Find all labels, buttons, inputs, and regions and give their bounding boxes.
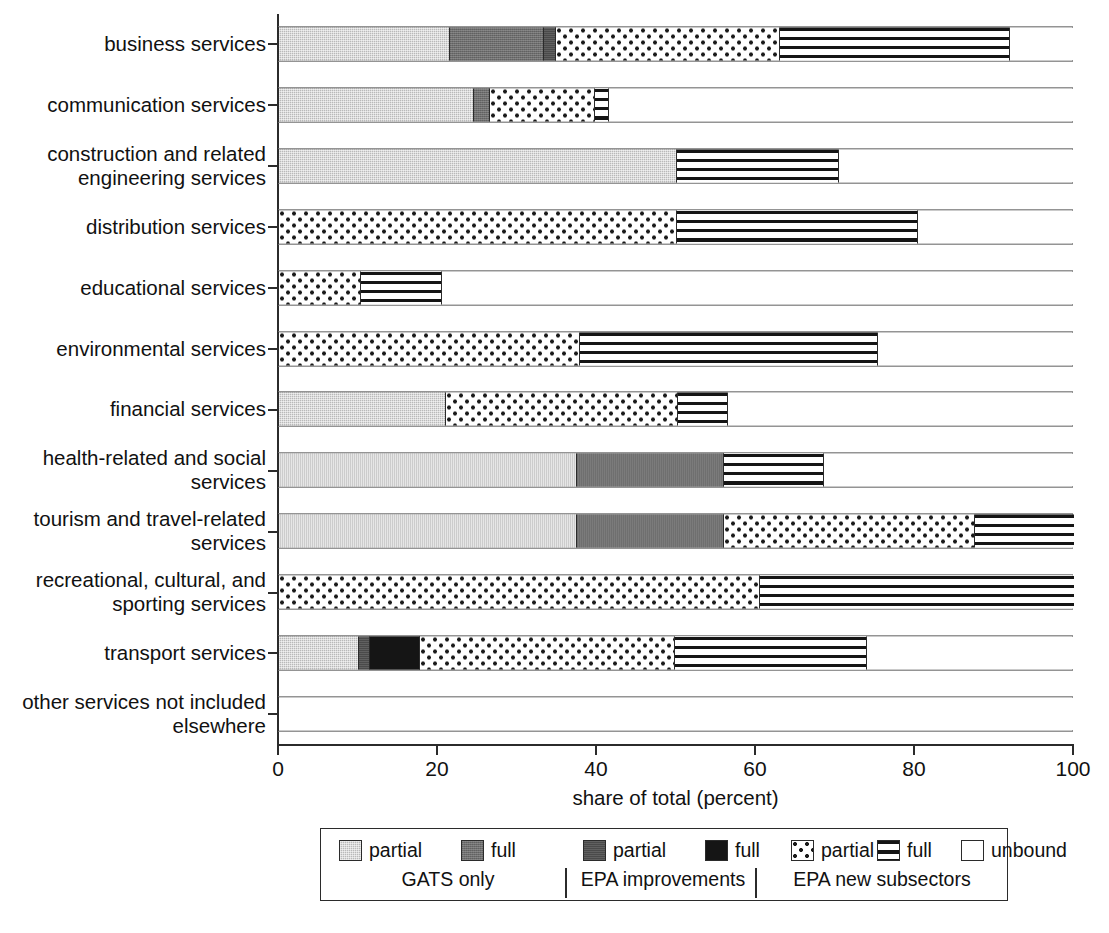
bar-segment-new_partial bbox=[279, 271, 361, 304]
y-axis-tick bbox=[268, 348, 278, 350]
chart-row: transport services bbox=[0, 623, 1109, 683]
y-axis-tick bbox=[268, 470, 278, 472]
legend-group-label: GATS only bbox=[327, 868, 569, 891]
bar-segment-gats_partial bbox=[279, 28, 450, 61]
y-axis-tick bbox=[268, 165, 278, 167]
y-axis-tick bbox=[268, 409, 278, 411]
category-label: educational services bbox=[0, 276, 266, 300]
legend-item: full bbox=[461, 839, 516, 862]
category-label: business services bbox=[0, 32, 266, 56]
chart-row: other services not included elsewhere bbox=[0, 684, 1109, 744]
bar-segment-epa_partial bbox=[544, 28, 556, 61]
stacked-bar bbox=[278, 392, 1073, 427]
legend-swatch-white bbox=[961, 840, 984, 861]
bar-segment-unbound bbox=[1010, 28, 1074, 61]
category-label: health-related and social services bbox=[0, 446, 266, 494]
legend-group-labels: GATS onlyEPA improvementsEPA new subsect… bbox=[321, 868, 1009, 898]
chart-row: distribution services bbox=[0, 197, 1109, 257]
bar-segment-new_partial bbox=[279, 332, 580, 365]
y-axis-tick bbox=[268, 226, 278, 228]
chart-row: educational services bbox=[0, 258, 1109, 318]
stacked-bar-chart: business servicescommunication servicesc… bbox=[0, 0, 1109, 933]
y-axis-tick bbox=[268, 104, 278, 106]
category-label: other services not included elsewhere bbox=[0, 690, 266, 738]
x-axis-tick bbox=[913, 746, 915, 755]
bar-segment-new_full bbox=[675, 637, 867, 670]
stacked-bar bbox=[278, 209, 1073, 244]
bar-segment-gats_partial bbox=[279, 454, 577, 487]
bar-segment-unbound bbox=[442, 271, 1074, 304]
bar-segment-gats_full bbox=[474, 88, 490, 121]
bar-segment-epa_partial bbox=[359, 637, 371, 670]
x-axis-tick bbox=[754, 746, 756, 755]
x-axis-tick-label: 40 bbox=[556, 757, 636, 781]
x-axis-tick bbox=[1072, 746, 1074, 755]
legend-label: partial bbox=[369, 839, 422, 862]
legend-swatch-medium-gray bbox=[461, 840, 484, 861]
bar-segment-new_full bbox=[760, 576, 1074, 609]
category-label: tourism and travel-related services bbox=[0, 507, 266, 555]
y-axis-tick bbox=[268, 43, 278, 45]
x-axis-tick-label: 0 bbox=[238, 757, 318, 781]
legend-swatch-horiz-stripes bbox=[877, 840, 900, 861]
legend-swatch-black bbox=[705, 840, 728, 861]
bar-segment-new_partial bbox=[279, 576, 760, 609]
bar-segment-new_partial bbox=[490, 88, 595, 121]
legend-label: unbound bbox=[991, 839, 1067, 862]
chart-legend: partialfullpartialfullpartialfullunbound… bbox=[320, 828, 1008, 901]
stacked-bar bbox=[278, 331, 1073, 366]
bar-segment-gats_full bbox=[577, 454, 724, 487]
x-axis-tick bbox=[277, 746, 279, 755]
bar-segment-unbound bbox=[918, 210, 1074, 243]
bar-segment-new_full bbox=[780, 28, 1011, 61]
bar-segment-gats_partial bbox=[279, 393, 446, 426]
chart-row: health-related and social services bbox=[0, 440, 1109, 500]
legend-swatch-dark-gray bbox=[583, 840, 606, 861]
legend-divider bbox=[565, 868, 567, 898]
bar-segment-new_full bbox=[677, 149, 840, 182]
stacked-bar bbox=[278, 27, 1073, 62]
y-axis-tick bbox=[268, 592, 278, 594]
x-axis-tick bbox=[436, 746, 438, 755]
chart-row: environmental services bbox=[0, 319, 1109, 379]
bar-segment-new_full bbox=[677, 210, 919, 243]
legend-item: partial bbox=[791, 839, 874, 862]
chart-row: communication services bbox=[0, 75, 1109, 135]
x-axis-line bbox=[277, 744, 1074, 746]
bar-segment-gats_partial bbox=[279, 88, 474, 121]
bar-segment-new_partial bbox=[724, 515, 974, 548]
chart-row: financial services bbox=[0, 379, 1109, 439]
chart-row: business services bbox=[0, 14, 1109, 74]
stacked-bar bbox=[278, 575, 1073, 610]
x-axis-tick-label: 100 bbox=[1033, 757, 1109, 781]
legend-item: unbound bbox=[961, 839, 1067, 862]
legend-item: partial bbox=[339, 839, 422, 862]
legend-label: full bbox=[907, 839, 932, 862]
legend-swatch-dotted bbox=[791, 840, 814, 861]
category-label: transport services bbox=[0, 641, 266, 665]
bar-segment-new_full bbox=[975, 515, 1074, 548]
bar-segment-new_partial bbox=[446, 393, 678, 426]
legend-swatch-light-gray bbox=[339, 840, 362, 861]
legend-group-label: EPA improvements bbox=[569, 868, 757, 891]
stacked-bar bbox=[278, 514, 1073, 549]
bar-segment-gats_full bbox=[577, 515, 724, 548]
bar-segment-new_full bbox=[678, 393, 728, 426]
bar-segment-unbound bbox=[609, 88, 1074, 121]
chart-row: construction and related engineering ser… bbox=[0, 136, 1109, 196]
bar-segment-new_full bbox=[580, 332, 878, 365]
x-axis-title: share of total (percent) bbox=[277, 786, 1074, 810]
chart-row: tourism and travel-related services bbox=[0, 501, 1109, 561]
legend-divider bbox=[755, 868, 757, 898]
chart-row: recreational, cultural, and sporting ser… bbox=[0, 562, 1109, 622]
bar-segment-gats_partial bbox=[279, 515, 577, 548]
category-label: financial services bbox=[0, 397, 266, 421]
bar-segment-new_partial bbox=[279, 210, 677, 243]
y-axis-tick bbox=[268, 531, 278, 533]
x-axis-tick-label: 60 bbox=[715, 757, 795, 781]
x-axis-tick-label: 80 bbox=[874, 757, 954, 781]
bar-segment-unbound bbox=[878, 332, 1074, 365]
category-label: construction and related engineering ser… bbox=[0, 142, 266, 190]
category-label: communication services bbox=[0, 93, 266, 117]
bar-segment-new_partial bbox=[420, 637, 675, 670]
